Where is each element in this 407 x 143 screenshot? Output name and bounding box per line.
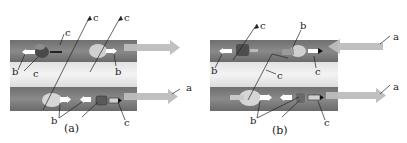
label-c: c [65, 28, 71, 38]
label-b: b [300, 21, 306, 31]
flow-arrow-icon [124, 40, 180, 104]
label-c: c [33, 69, 39, 79]
panel-a-graphics [0, 0, 200, 143]
label-b: b [250, 116, 256, 126]
flow-arrow-icon [326, 39, 386, 103]
panel-b: c b a b c c a b c (b) [200, 0, 407, 143]
label-a: a [186, 83, 192, 93]
label-b: b [211, 66, 217, 76]
label-c: c [124, 118, 130, 128]
label-c: c [315, 67, 321, 77]
panel-caption: (b) [272, 124, 288, 137]
panel-caption: (a) [64, 122, 79, 135]
leader-lines [215, 24, 390, 120]
label-b: b [51, 116, 57, 126]
label-c: c [124, 13, 130, 23]
panel-a: c c c b c b a b c (a) [0, 0, 200, 143]
label-a: a [393, 82, 399, 92]
label-b: b [115, 67, 121, 77]
label-a: a [393, 32, 399, 42]
label-c: c [277, 71, 283, 81]
label-c: c [93, 13, 99, 23]
label-c: c [324, 118, 330, 128]
label-c: c [260, 21, 266, 31]
label-b: b [12, 67, 18, 77]
